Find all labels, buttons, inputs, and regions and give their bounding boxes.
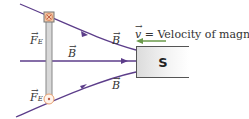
arrow-middle-icon	[121, 58, 128, 64]
velocity-label: →v = Velocity of magnet	[135, 28, 249, 41]
pole-label: S	[158, 55, 167, 70]
field-label-middle: →B	[68, 48, 76, 59]
velocity-symbol: →v	[135, 28, 141, 41]
field-label-top: →B	[112, 35, 120, 46]
conducting-rod	[46, 18, 52, 100]
field-label-bottom: →B	[112, 80, 120, 91]
force-label-bottom: →FE	[30, 92, 43, 103]
magnet-south-pole: S	[136, 46, 189, 78]
force-label-top: →FE	[30, 35, 43, 46]
